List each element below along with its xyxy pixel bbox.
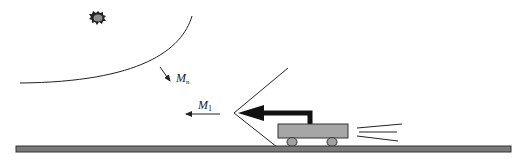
light-source-icon — [89, 11, 106, 25]
ground-rail — [16, 146, 511, 152]
momentum-label: M1 — [197, 98, 212, 113]
mirror-arc — [20, 16, 192, 83]
normal-label: Mn — [175, 71, 190, 86]
normal-arrow — [160, 67, 170, 81]
cart-wheel-front — [287, 138, 297, 147]
thrust-arrow — [238, 105, 310, 124]
cart-body — [278, 124, 348, 138]
speed-lines — [357, 124, 402, 141]
diagram-canvas: Mn M1 — [0, 0, 524, 163]
cart-wheel-rear — [327, 138, 337, 147]
